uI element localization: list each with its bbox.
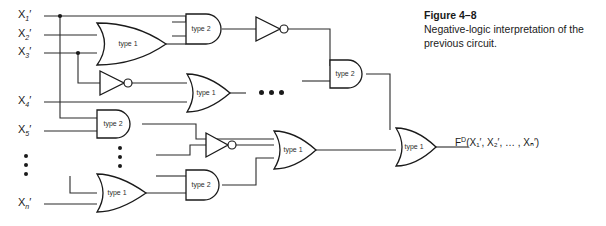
gate-g1-or[interactable]: type 1 xyxy=(97,23,166,65)
vertical-ellipsis-inputs xyxy=(24,154,28,181)
gate-g4-and[interactable]: type 2 xyxy=(330,60,362,88)
gate-g9-label: type 1 xyxy=(404,143,423,151)
horizontal-ellipsis-signals xyxy=(259,90,284,95)
gate-g8-or[interactable]: type 1 xyxy=(274,131,316,169)
gate-g8-label: type 1 xyxy=(283,146,302,154)
gate-g7-and[interactable]: type 2 xyxy=(186,170,219,200)
figure-number: Figure 4–8 xyxy=(424,8,602,22)
input-x1-prime: ′ xyxy=(29,8,31,20)
gate-g2-label: type 2 xyxy=(191,25,210,33)
input-x2-prime: ′ xyxy=(29,27,31,39)
gate-g3-label: type 1 xyxy=(196,89,215,97)
input-x5-prime: ′ xyxy=(29,123,31,135)
input-label-x3: X3′ xyxy=(18,45,31,59)
inverter-inv3[interactable] xyxy=(206,133,236,157)
gate-g5-and[interactable]: type 2 xyxy=(97,110,130,138)
input-label-x4: X4′ xyxy=(18,94,31,108)
gate-g9-or[interactable]: type 1 xyxy=(396,128,436,166)
input-xn-prime: ′ xyxy=(29,196,31,208)
input-x3-prime: ′ xyxy=(29,45,31,57)
figure-canvas: type 1 type 2 type 1 type 2 xyxy=(0,0,606,226)
inverter-inv2[interactable] xyxy=(100,71,132,95)
gate-g4-label: type 2 xyxy=(335,70,354,78)
gate-g5-label: type 2 xyxy=(103,120,122,128)
gate-g2-and[interactable]: type 2 xyxy=(172,14,221,44)
output-args: (X₁′, X₂′, … , Xₙ′) xyxy=(466,137,539,148)
junction-dot-x3 xyxy=(76,51,80,55)
input-label-x5: X5′ xyxy=(18,123,31,137)
gate-g1-label: type 1 xyxy=(118,40,137,48)
junction-dot-x1 xyxy=(58,14,62,18)
output-label: FD(X₁′, X₂′, … , Xₙ′) xyxy=(455,136,539,148)
gate-g3-or[interactable]: type 1 xyxy=(187,74,230,112)
inverter-inv1[interactable] xyxy=(256,17,288,41)
figure-caption: Figure 4–8 Negative-logic interpretation… xyxy=(424,8,602,50)
gate-g6-label: type 1 xyxy=(107,189,126,197)
vertical-ellipsis-middle xyxy=(118,146,122,173)
gate-g6-or[interactable]: type 1 xyxy=(97,174,146,212)
input-label-xn: Xn′ xyxy=(18,196,31,210)
input-label-x1: X1′ xyxy=(18,8,31,22)
figure-caption-text: Negative-logic interpretation of the pre… xyxy=(424,22,602,50)
gate-g7-label: type 2 xyxy=(191,181,210,189)
input-x4-prime: ′ xyxy=(29,94,31,106)
input-label-x2: X2′ xyxy=(18,27,31,41)
